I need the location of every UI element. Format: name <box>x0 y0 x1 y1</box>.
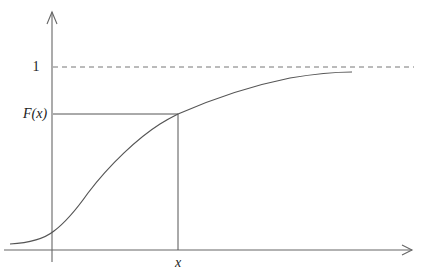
y-label-fx: F(x) <box>22 106 47 122</box>
x-label-x: x <box>174 255 182 270</box>
cdf-curve <box>10 72 352 244</box>
y-label-one: 1 <box>33 59 40 74</box>
cdf-diagram: 1 F(x) x <box>0 0 422 274</box>
